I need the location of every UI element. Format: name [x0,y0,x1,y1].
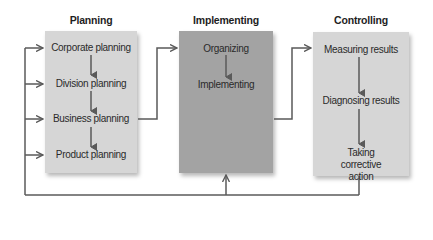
arrow-planning-to-implementing [138,48,177,119]
arrow-implementing-to-controlling [274,48,311,119]
planning-item-product: Product planning [45,149,137,161]
controlling-item-corrective: Taking corrective action [330,147,392,183]
controlling-item-measuring: Measuring results [313,44,409,56]
planning-item-corporate: Corporate planning [45,42,137,54]
implementing-item-implementing: Implementing [179,79,273,91]
planning-item-business: Business planning [45,113,137,125]
controlling-item-diagnosing: Diagnosing results [313,95,409,107]
implementing-item-organizing: Organizing [179,43,273,55]
planning-item-division: Division planning [45,78,137,90]
